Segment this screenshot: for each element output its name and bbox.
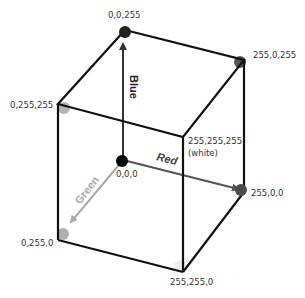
rgb-cube-diagram: Blue Red Green 0,0,255 255,0,255 0,255,2… [0,0,305,298]
vertex-label-blue: 0,0,255 [108,10,140,20]
red-axis-label: Red [156,150,179,167]
vertex-dot-red [235,184,247,196]
blue-axis-label: Blue [128,75,140,99]
vertex-label-cyan: 0,255,255 [10,100,53,110]
vertex-label-white: 255,255,255 [188,136,242,146]
vertex-label-magenta: 255,0,255 [253,50,296,60]
vertex-label-yellow: 255,255,0 [170,277,213,287]
cube-canvas: Blue Red Green 0,0,255 255,0,255 0,255,2… [0,0,305,298]
vertex-label-red: 255,0,0 [251,188,283,198]
vertex-label-green: 0,255,0 [21,238,53,248]
vertex-dot-black [116,155,128,167]
vertex-label-black: 0,0,0 [116,169,138,179]
vertex-dot-blue [119,26,131,38]
vertex-label-white-sub: (white) [188,148,218,158]
red-axis-arrow [123,160,238,189]
